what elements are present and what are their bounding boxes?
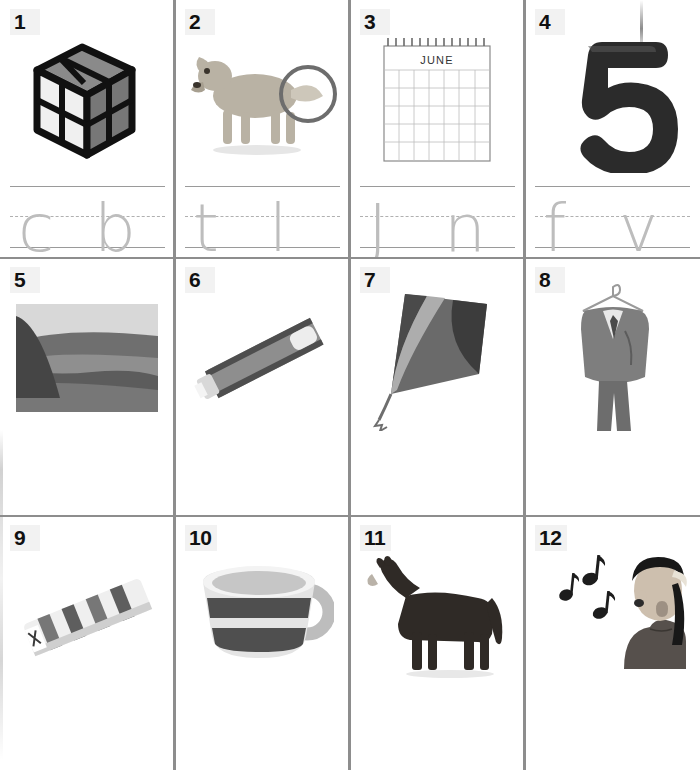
picture-horse — [350, 536, 523, 696]
writing-lines-2[interactable]: t l — [185, 186, 340, 248]
worksheet-item-9[interactable]: 9 — [0, 516, 175, 770]
letter-choice-first[interactable]: f — [543, 196, 566, 258]
item-number-1: 1 — [10, 9, 40, 35]
item-number-9: 9 — [10, 525, 40, 551]
picture-number-five — [525, 20, 700, 180]
picture-suit-on-hanger — [525, 278, 700, 438]
column-separator-2 — [349, 0, 351, 770]
calendar-month-label: JUNE — [420, 54, 454, 66]
worksheet-item-2[interactable]: 2 — [175, 0, 350, 258]
worksheet-item-7[interactable]: 7 k t — [350, 258, 525, 516]
item-number-8: 8 — [535, 267, 565, 293]
letter-choice-first[interactable]: c — [18, 196, 54, 258]
item-number-12: 12 — [535, 525, 567, 551]
picture-hill-landscape — [0, 278, 173, 438]
letter-choice-first[interactable]: J — [368, 196, 387, 258]
writing-lines-3[interactable]: J n — [360, 186, 515, 248]
worksheet-item-3[interactable]: 3 JUNE — [350, 0, 525, 258]
picture-calendar: JUNE — [350, 20, 523, 180]
picture-toothpaste-tube — [175, 278, 348, 438]
item-number-2: 2 — [185, 9, 215, 35]
letter-choice-second[interactable]: b — [94, 196, 136, 258]
letter-choices-2[interactable]: t l — [185, 186, 340, 248]
item-number-11: 11 — [360, 525, 391, 551]
worksheet-item-5[interactable]: 5 l k — [0, 258, 175, 516]
picture-striped-mat — [0, 536, 173, 696]
worksheet-item-8[interactable]: 8 s t — [525, 258, 700, 516]
letter-choices-1[interactable]: c b — [10, 186, 165, 248]
column-separator-3 — [524, 0, 526, 770]
letter-choices-3[interactable]: J n — [360, 186, 515, 248]
picture-dog-with-circled-tail — [175, 20, 348, 180]
item-number-5: 5 — [10, 267, 40, 293]
item-number-10: 10 — [185, 525, 217, 551]
letter-choice-second[interactable]: n — [444, 196, 486, 258]
worksheet-item-1[interactable]: 1 — [0, 0, 175, 258]
picture-kite — [350, 278, 523, 438]
item-number-7: 7 — [360, 267, 390, 293]
item-number-4: 4 — [535, 9, 565, 35]
letter-choices-4[interactable]: f v — [535, 186, 690, 248]
writing-lines-4[interactable]: f v — [535, 186, 690, 248]
picture-rubiks-cube — [0, 20, 173, 180]
music-note-icon — [557, 555, 615, 621]
worksheet-item-12[interactable]: 12 — [525, 516, 700, 770]
letter-choice-second[interactable]: l — [269, 196, 287, 258]
worksheet-item-4[interactable]: 4 f v — [525, 0, 700, 258]
worksheet-item-6[interactable]: 6 t b — [175, 258, 350, 516]
letter-choice-second[interactable]: v — [619, 196, 658, 258]
worksheet-item-11[interactable]: 11 — [350, 516, 525, 770]
column-separator-1 — [174, 0, 176, 770]
picture-cup — [175, 536, 348, 696]
worksheet-item-10[interactable]: 10 c p — [175, 516, 350, 770]
worksheet-page: 1 — [0, 0, 700, 770]
item-number-3: 3 — [360, 9, 390, 35]
item-number-6: 6 — [185, 267, 215, 293]
letter-choice-first[interactable]: t — [193, 196, 219, 258]
picture-girl-singing — [525, 536, 700, 696]
writing-lines-1[interactable]: c b — [10, 186, 165, 248]
